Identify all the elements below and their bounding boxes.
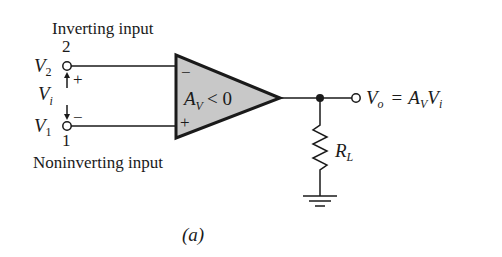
output-equation: Vo=AVVi	[366, 87, 442, 111]
vi-minus-arrow-icon	[64, 105, 70, 120]
inverting-input-label: Inverting input	[52, 19, 154, 38]
ground-icon	[303, 196, 337, 206]
inverting-terminal	[63, 62, 71, 70]
noninverting-terminal	[63, 122, 71, 130]
noninverting-input-label: Noninverting input	[33, 153, 163, 172]
pin-1-label: 1	[62, 131, 71, 150]
v2-plus-sign: +	[73, 70, 83, 89]
load-resistor-icon	[313, 98, 327, 196]
vi-label: Vi	[38, 83, 53, 108]
vi-plus-arrow-icon	[64, 72, 70, 88]
op-amp-plus-terminal: +	[180, 113, 190, 132]
op-amp-minus-terminal: −	[181, 63, 191, 82]
load-resistor-label: RL	[334, 140, 354, 164]
v1-minus-sign: −	[73, 108, 83, 127]
output-terminal	[352, 94, 360, 102]
figure-caption: (a)	[182, 224, 204, 246]
op-amp-diagram: Inverting input 2 V2 + Vi − V1 1 Noninve…	[0, 0, 502, 257]
pin-2-label: 2	[62, 37, 71, 56]
v2-label: V2	[34, 55, 52, 79]
v1-label: V1	[34, 115, 52, 139]
